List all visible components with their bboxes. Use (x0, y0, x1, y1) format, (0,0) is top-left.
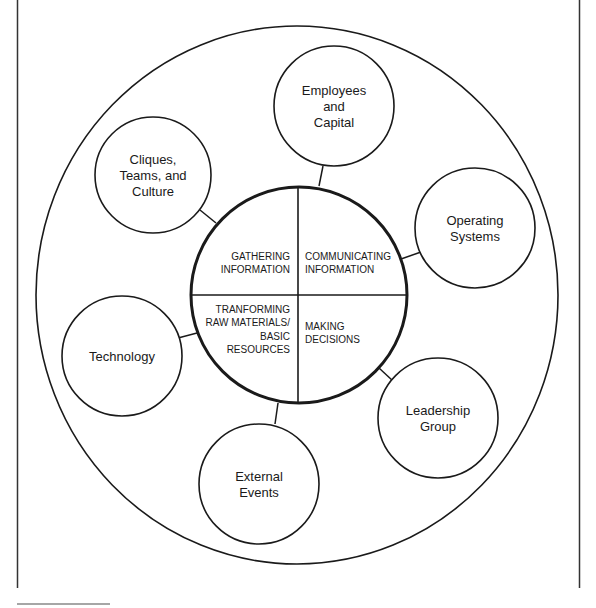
technology-connector (178, 333, 197, 338)
satellite-technology: Technology (62, 296, 182, 416)
employees-connector (319, 166, 323, 186)
cliques-label-line: Culture (132, 184, 174, 199)
core-bottom-left-label-line: RESOURCES (227, 344, 291, 355)
leadership-label-line: Group (420, 419, 456, 434)
operating-connector (401, 252, 421, 259)
core-top-right-label-line: INFORMATION (305, 264, 374, 275)
satellite-operating: OperatingSystems (415, 168, 535, 288)
core-top-right-label-line: COMMUNICATING (305, 251, 391, 262)
employees-label-line: Employees (302, 83, 367, 98)
core-bottom-left-label-line: TRANFORMING (216, 304, 291, 315)
core-bottom-right-label-line: DECISIONS (305, 334, 360, 345)
external-connector (275, 403, 278, 424)
external-label-line: External (235, 469, 283, 484)
satellite-leadership: LeadershipGroup (378, 358, 498, 478)
employees-label-line: and (323, 99, 345, 114)
core-circle (191, 187, 407, 403)
satellite-cliques: Cliques,Teams, andCulture (95, 117, 211, 233)
satellite-employees: EmployeesandCapital (274, 46, 394, 166)
technology-label-line: Technology (89, 349, 155, 364)
employees-label-line: Capital (314, 115, 355, 130)
leadership-connector (379, 368, 393, 381)
cliques-label-line: Cliques, (130, 152, 177, 167)
cliques-label-line: Teams, and (119, 168, 186, 183)
operating-label-line: Systems (450, 229, 500, 244)
cliques-connector (200, 210, 216, 223)
operating-label-line: Operating (446, 213, 503, 228)
satellite-external: ExternalEvents (199, 424, 319, 544)
external-label-line: Events (239, 485, 279, 500)
core-top-left-label-line: INFORMATION (221, 264, 290, 275)
core-bottom-left-label-line: RAW MATERIALS/ (206, 317, 291, 328)
leadership-label-line: Leadership (406, 403, 470, 418)
core-bottom-right-label-line: MAKING (305, 321, 345, 332)
organization-diagram: EmployeesandCapitalOperatingSystemsLeade… (0, 0, 596, 608)
core-top-left-label-line: GATHERING (231, 251, 290, 262)
core-bottom-left-label-line: BASIC (260, 331, 290, 342)
